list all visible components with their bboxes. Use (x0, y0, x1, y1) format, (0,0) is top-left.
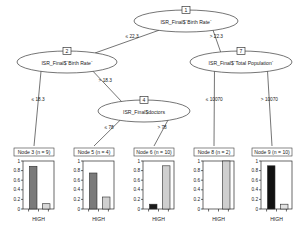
y-tick-label-8-0: 0 (197, 207, 200, 212)
x-axis-label-8: HIGH (212, 216, 225, 222)
x-axis-label-3: HIGH (32, 216, 45, 222)
bar-9-1 (281, 204, 289, 209)
node-variable-2: ISR_Final$`Birth Rate` (41, 60, 93, 66)
bar-6-0 (149, 204, 157, 209)
bar-9-0 (267, 166, 275, 209)
y-tick-label-5-5: 1 (77, 159, 80, 164)
tree-edge-2-left (34, 71, 41, 146)
y-tick-label-3-1: 0.2 (13, 197, 20, 202)
y-tick-label-5-4: 0.8 (73, 168, 80, 173)
y-tick-label-8-2: 0.4 (193, 187, 200, 192)
x-axis-label-6: HIGH (152, 216, 165, 222)
bar-6-1 (163, 166, 171, 209)
y-tick-label-8-3: 0.6 (193, 178, 200, 183)
inner-node-1: 1ISR_Final$`Birth Rate` (134, 7, 238, 33)
y-tick-label-8-1: 0.2 (193, 197, 200, 202)
y-tick-label-3-0: 0 (17, 207, 20, 212)
y-tick-label-3-2: 0.4 (13, 187, 20, 192)
y-tick-label-8-4: 0.8 (193, 168, 200, 173)
y-tick-label-9-3: 0.6 (251, 178, 258, 183)
y-tick-label-8-5: 1 (197, 159, 200, 164)
terminal-header-9: Node 9 (n = 10) (254, 149, 290, 155)
node-id-label-4: 4 (143, 97, 146, 103)
terminal-node-9: Node 9 (n = 10)00.20.40.60.81HIGH (251, 148, 292, 222)
tree-edge-4-right (154, 120, 168, 146)
edge-label-4-left: ≤ 78 (105, 125, 114, 130)
inner-node-4: 4ISR_Final$doctors (98, 97, 190, 123)
y-tick-label-9-1: 0.2 (251, 197, 258, 202)
terminal-header-6: Node 6 (n = 10) (136, 149, 172, 155)
edge-label-1-right: > 22.3 (210, 34, 224, 39)
y-tick-label-6-3: 0.6 (133, 178, 140, 183)
terminal-node-3: Node 3 (n = 9)00.20.40.60.81HIGH (13, 148, 54, 222)
edge-label-7-left: ≤ 10070 (206, 97, 223, 102)
terminal-header-8: Node 8 (n = 2) (198, 149, 231, 155)
y-tick-label-6-2: 0.4 (133, 187, 140, 192)
x-axis-label-5: HIGH (92, 216, 105, 222)
terminal-node-5: Node 5 (n = 4)00.20.40.60.81HIGH (73, 148, 114, 222)
terminal-node-6: Node 6 (n = 10)00.20.40.60.81HIGH (133, 148, 174, 222)
terminal-header-3: Node 3 (n = 9) (18, 149, 51, 155)
inner-node-2: 2ISR_Final$`Birth Rate` (17, 48, 117, 74)
y-tick-label-5-2: 0.4 (73, 187, 80, 192)
y-tick-label-6-5: 1 (137, 159, 140, 164)
y-tick-label-5-0: 0 (77, 207, 80, 212)
y-tick-label-6-4: 0.8 (133, 168, 140, 173)
terminal-node-panels: Node 3 (n = 9)00.20.40.60.81HIGHNode 5 (… (13, 148, 292, 222)
x-axis-label-9: HIGH (270, 216, 283, 222)
bar-3-1 (43, 204, 51, 209)
edge-label-1-left: ≤ 22.3 (126, 34, 139, 39)
terminal-header-5: Node 5 (n = 4) (78, 149, 111, 155)
y-tick-label-9-5: 1 (255, 159, 258, 164)
y-tick-label-3-3: 0.6 (13, 178, 20, 183)
tree-edge-4-left (94, 120, 120, 146)
node-id-label-7: 7 (240, 48, 243, 54)
edge-label-2-right: > 18.3 (99, 78, 113, 83)
edge-label-4-right: > 78 (157, 125, 167, 130)
node-variable-1: ISR_Final$`Birth Rate` (160, 19, 212, 25)
tree-inner-nodes: 1ISR_Final$`Birth Rate`2ISR_Final$`Birth… (17, 7, 292, 123)
bar-5-0 (89, 173, 97, 209)
edge-label-2-left: ≤ 18.3 (32, 97, 45, 102)
bar-8-1 (223, 161, 231, 209)
node-variable-7: ISR_Final$`Total Population` (209, 60, 274, 66)
y-tick-label-5-1: 0.2 (73, 197, 80, 202)
tree-canvas: ≤ 22.3> 22.3≤ 18.3> 18.3≤ 78> 78≤ 10070>… (0, 0, 305, 238)
y-tick-label-6-0: 0 (137, 207, 140, 212)
y-tick-label-6-1: 0.2 (133, 197, 140, 202)
y-tick-label-3-4: 0.8 (13, 168, 20, 173)
y-tick-label-3-5: 1 (17, 159, 20, 164)
plot-box-9 (261, 161, 292, 209)
node-id-label-2: 2 (66, 48, 69, 54)
edge-label-7-right: > 10070 (261, 97, 278, 102)
y-tick-label-9-4: 0.8 (251, 168, 258, 173)
y-tick-label-9-2: 0.4 (251, 187, 258, 192)
tree-edge-7-right (268, 71, 272, 146)
inner-node-7: 7ISR_Final$`Total Population` (190, 48, 292, 74)
tree-edge-2-right (93, 71, 122, 102)
bar-3-0 (29, 166, 37, 209)
node-id-label-1: 1 (185, 7, 188, 13)
node-variable-4: ISR_Final$doctors (123, 109, 165, 115)
bar-5-1 (103, 197, 111, 209)
y-tick-label-9-0: 0 (255, 207, 258, 212)
terminal-node-8: Node 8 (n = 2)00.20.40.60.81HIGH (193, 148, 234, 222)
decision-tree-plot: ≤ 22.3> 22.3≤ 18.3> 18.3≤ 78> 78≤ 10070>… (0, 0, 305, 238)
y-tick-label-5-3: 0.6 (73, 178, 80, 183)
plot-box-3 (23, 161, 54, 209)
